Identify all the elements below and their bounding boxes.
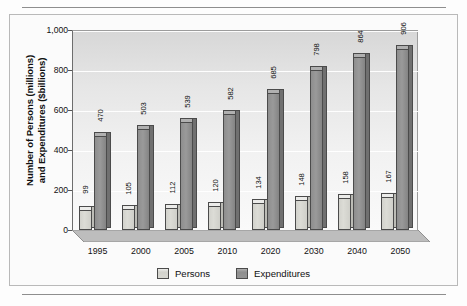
bar-value-label: 134 — [254, 170, 263, 196]
bar-value-label: 148 — [297, 167, 306, 193]
y-tick-label-200: 200 — [32, 185, 68, 195]
bar-value-label: 120 — [210, 173, 219, 199]
bottom-rule — [22, 294, 446, 295]
bar-side-face — [323, 66, 327, 228]
bar-expenditures-2030[interactable]: 798 — [310, 70, 323, 230]
chart-figure: Number of Persons (millions) and Expendi… — [0, 0, 467, 306]
bar-value-label: 798 — [312, 37, 321, 63]
bar-value-label: 99 — [81, 177, 90, 203]
bar-value-label: 864 — [355, 24, 364, 50]
legend-item-expenditures[interactable]: Expenditures — [236, 268, 310, 279]
bar-side-face — [366, 53, 370, 228]
bar-value-label: 685 — [269, 60, 278, 86]
bar-persons-2020[interactable]: 134 — [252, 203, 265, 230]
bar-top-cap — [267, 89, 280, 93]
bar-group-2030: 148798 — [288, 30, 331, 230]
bar-expenditures-2040[interactable]: 864 — [353, 57, 366, 230]
bar-group-2040: 158864 — [332, 30, 375, 230]
bar-persons-2000[interactable]: 105 — [122, 209, 135, 230]
bar-groups: 9947010550311253912058213468514879815886… — [72, 30, 418, 230]
bar-value-label: 167 — [383, 163, 392, 189]
bar-persons-2040[interactable]: 158 — [338, 198, 351, 230]
bar-front-face — [267, 93, 280, 230]
x-tick-label-2005: 2005 — [164, 246, 204, 256]
bar-top-cap — [180, 118, 193, 122]
bar-value-label: 539 — [182, 89, 191, 115]
bar-persons-2010[interactable]: 120 — [208, 206, 221, 230]
bar-expenditures-2050[interactable]: 906 — [396, 49, 409, 230]
bar-expenditures-2010[interactable]: 582 — [223, 114, 236, 230]
bar-front-face — [122, 209, 135, 230]
y-axis-ticks: 02004006008001,000 — [28, 30, 68, 230]
bar-top-cap — [208, 202, 221, 206]
y-tick-label-400: 400 — [32, 145, 68, 155]
bar-group-2005: 112539 — [159, 30, 202, 230]
bar-group-2000: 105503 — [115, 30, 158, 230]
bar-top-cap — [381, 193, 394, 197]
legend-swatch-expenditures-icon — [236, 268, 248, 279]
bar-front-face — [295, 200, 308, 230]
x-tick-label-1995: 1995 — [78, 246, 118, 256]
bar-group-2050: 167906 — [375, 30, 418, 230]
bar-side-face — [193, 118, 197, 228]
bar-persons-1995[interactable]: 99 — [79, 210, 92, 230]
y-tick-mark-0 — [68, 230, 72, 231]
bar-front-face — [79, 210, 92, 230]
plot-floor — [72, 230, 430, 242]
legend-item-persons[interactable]: Persons — [157, 268, 210, 279]
bar-top-cap — [353, 53, 366, 57]
bar-value-label: 112 — [167, 174, 176, 200]
bar-top-cap — [223, 110, 236, 114]
bar-expenditures-1995[interactable]: 470 — [94, 136, 107, 230]
y-tick-label-1,000: 1,000 — [32, 25, 68, 35]
bar-front-face — [252, 203, 265, 230]
bar-persons-2030[interactable]: 148 — [295, 200, 308, 230]
bar-top-cap — [137, 125, 150, 129]
bar-expenditures-2000[interactable]: 503 — [137, 129, 150, 230]
x-tick-label-2040: 2040 — [337, 246, 377, 256]
x-tick-label-2050: 2050 — [380, 246, 420, 256]
bar-top-cap — [310, 66, 323, 70]
bar-group-2020: 134685 — [245, 30, 288, 230]
x-tick-label-2010: 2010 — [207, 246, 247, 256]
bar-top-cap — [79, 206, 92, 210]
bar-side-face — [236, 110, 240, 228]
legend-label-persons: Persons — [175, 268, 210, 279]
legend-swatch-persons-icon — [157, 268, 169, 279]
bar-front-face — [353, 57, 366, 230]
bar-side-face — [409, 45, 413, 228]
bar-top-cap — [396, 45, 409, 49]
bar-front-face — [165, 208, 178, 230]
bar-group-1995: 99470 — [72, 30, 115, 230]
bar-front-face — [381, 197, 394, 230]
y-tick-label-800: 800 — [32, 65, 68, 75]
bar-value-label: 158 — [340, 165, 349, 191]
x-tick-label-2020: 2020 — [251, 246, 291, 256]
bar-persons-2005[interactable]: 112 — [165, 208, 178, 230]
x-tick-label-2000: 2000 — [121, 246, 161, 256]
bar-side-face — [280, 89, 284, 228]
chart-legend: Persons Expenditures — [0, 268, 467, 279]
bar-top-cap — [165, 204, 178, 208]
bar-top-cap — [94, 132, 107, 136]
bar-value-label: 503 — [139, 96, 148, 122]
bar-side-face — [150, 125, 154, 228]
bar-value-label: 582 — [225, 80, 234, 106]
bar-persons-2050[interactable]: 167 — [381, 197, 394, 230]
bar-top-cap — [252, 199, 265, 203]
bar-front-face — [94, 136, 107, 230]
bar-front-face — [137, 129, 150, 230]
bar-front-face — [338, 198, 351, 230]
y-tick-label-0: 0 — [32, 225, 68, 235]
bar-front-face — [396, 49, 409, 230]
bar-top-cap — [295, 196, 308, 200]
bar-side-face — [107, 132, 111, 228]
bar-value-label: 906 — [398, 15, 407, 41]
bar-group-2010: 120582 — [202, 30, 245, 230]
bar-value-label: 470 — [96, 103, 105, 129]
x-tick-label-2030: 2030 — [294, 246, 334, 256]
plot-floor-shape — [72, 230, 430, 242]
bar-expenditures-2005[interactable]: 539 — [180, 122, 193, 230]
bar-front-face — [223, 114, 236, 230]
bar-expenditures-2020[interactable]: 685 — [267, 93, 280, 230]
